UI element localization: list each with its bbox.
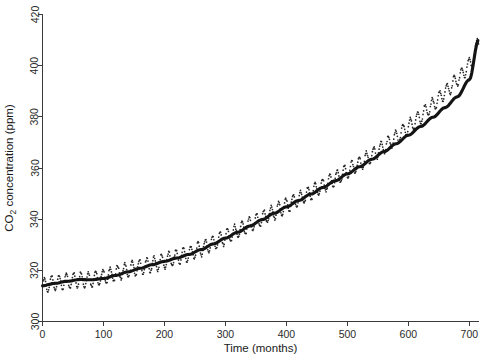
- data-point: [204, 241, 206, 243]
- data-point: [190, 246, 192, 248]
- data-point: [458, 84, 460, 86]
- data-point: [57, 278, 59, 280]
- data-point: [147, 257, 149, 259]
- data-point: [168, 251, 170, 253]
- data-point: [445, 87, 447, 89]
- data-point: [269, 210, 271, 212]
- data-point: [466, 66, 468, 68]
- data-point: [437, 95, 439, 97]
- data-point: [340, 180, 342, 182]
- data-point: [162, 256, 164, 258]
- data-point: [256, 213, 258, 215]
- data-point: [161, 253, 163, 255]
- data-point: [436, 107, 438, 109]
- data-point: [371, 155, 373, 157]
- data-point: [270, 204, 272, 206]
- y-tick-label: 360: [29, 159, 41, 177]
- data-point: [111, 271, 113, 273]
- data-point: [257, 216, 259, 218]
- data-point: [220, 234, 222, 236]
- data-point: [223, 246, 225, 248]
- x-tick-label: 500: [339, 328, 357, 340]
- data-point: [189, 249, 191, 251]
- data-point: [242, 223, 244, 225]
- data-point: [121, 277, 123, 279]
- data-point: [203, 243, 205, 245]
- data-point: [375, 152, 377, 154]
- data-point: [286, 200, 288, 202]
- data-point: [47, 291, 49, 293]
- y-tick-label: 320: [29, 261, 41, 279]
- data-point: [115, 268, 117, 270]
- data-point: [464, 77, 466, 79]
- data-point: [240, 226, 242, 228]
- data-point: [234, 223, 236, 225]
- x-tick-label: 200: [156, 328, 174, 340]
- data-point: [458, 79, 460, 81]
- data-point: [220, 231, 222, 233]
- data-point: [96, 273, 98, 275]
- data-point: [139, 259, 141, 261]
- data-point: [72, 277, 74, 279]
- y-tick-label: 300: [29, 313, 41, 331]
- data-point: [352, 164, 354, 166]
- data-point: [264, 213, 266, 215]
- data-point: [426, 112, 428, 114]
- data-point: [272, 209, 274, 211]
- data-point: [249, 217, 251, 219]
- data-point: [126, 269, 128, 271]
- data-point: [315, 183, 317, 185]
- data-point: [45, 281, 47, 283]
- data-point: [334, 177, 336, 179]
- data-point: [423, 110, 425, 112]
- data-point: [429, 111, 431, 113]
- data-point: [133, 264, 135, 266]
- data-point: [140, 262, 142, 264]
- data-point: [373, 146, 375, 148]
- data-point: [415, 115, 417, 117]
- data-point: [148, 268, 150, 270]
- data-point: [278, 202, 280, 204]
- data-point: [393, 138, 395, 140]
- data-point: [48, 286, 50, 288]
- data-point: [165, 264, 167, 266]
- data-point: [444, 95, 446, 97]
- data-point: [411, 123, 413, 125]
- data-point: [56, 286, 58, 288]
- data-point: [469, 57, 471, 59]
- data-point: [462, 72, 464, 74]
- data-point: [227, 229, 229, 231]
- data-point: [318, 193, 320, 195]
- data-point: [342, 169, 344, 171]
- data-point: [201, 256, 203, 258]
- data-point: [214, 245, 216, 247]
- data-point: [337, 169, 339, 171]
- x-axis-title: Time (months): [224, 342, 298, 354]
- data-point: [440, 93, 442, 95]
- data-point: [459, 72, 461, 74]
- data-point: [242, 221, 244, 223]
- data-point: [89, 274, 91, 276]
- data-point: [367, 155, 369, 157]
- data-point: [211, 239, 213, 241]
- data-point: [379, 143, 381, 145]
- data-point: [273, 217, 275, 219]
- data-point: [337, 172, 339, 174]
- data-point: [81, 276, 83, 278]
- data-point: [372, 151, 374, 153]
- data-point: [428, 113, 430, 115]
- data-point: [409, 117, 411, 119]
- data-point: [218, 236, 220, 238]
- data-point: [101, 274, 103, 276]
- data-point: [167, 253, 169, 255]
- data-point: [432, 98, 434, 100]
- data-point: [450, 92, 452, 94]
- data-point: [408, 126, 410, 128]
- data-point: [73, 272, 75, 274]
- data-point: [264, 209, 266, 211]
- data-point: [430, 103, 432, 105]
- data-point: [158, 266, 160, 268]
- data-point: [418, 113, 420, 115]
- data-point: [330, 176, 332, 178]
- data-point: [429, 106, 431, 108]
